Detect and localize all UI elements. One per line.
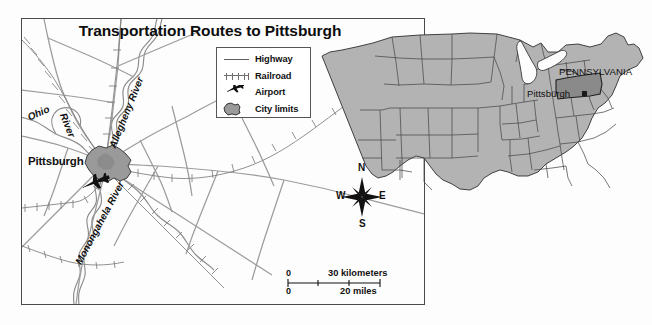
scale-bar: 0 30 kilometers 0 20 miles [286, 268, 408, 300]
inset-city-label-pittsburgh: Pittsburgh [527, 88, 570, 99]
compass-rose: N S W E [336, 162, 388, 232]
legend-label-city-limits: City limits [255, 104, 298, 114]
map-figure: Transportation Routes to Pittsburgh Pitt… [0, 0, 652, 325]
legend-item-city-limits: City limits [217, 101, 310, 118]
legend-label-airport: Airport [255, 87, 285, 97]
legend-item-highway: Highway [217, 51, 310, 68]
scale-km-label: 30 kilometers [328, 268, 387, 278]
highway-line-icon [222, 52, 252, 66]
airplane-icon [222, 85, 252, 99]
compass-east-label: E [379, 190, 386, 201]
scale-mi-start: 0 [286, 286, 291, 296]
inset-city-dot-pittsburgh [582, 91, 587, 96]
map-legend: Highway Railroad Airport [216, 47, 311, 118]
scale-mi-label: 20 miles [340, 286, 377, 296]
compass-south-label: S [359, 218, 366, 229]
compass-north-label: N [358, 162, 365, 173]
page-title: Transportation Routes to Pittsburgh [60, 22, 360, 40]
legend-item-airport: Airport [217, 84, 310, 101]
state-label-pennsylvania: PENNSYLVANIA [559, 66, 632, 77]
city-label-pittsburgh: Pittsburgh [28, 155, 84, 167]
scale-km-start: 0 [286, 268, 291, 278]
city-limits-polygon-icon [222, 102, 252, 116]
legend-label-highway: Highway [255, 54, 293, 64]
legend-item-railroad: Railroad [217, 68, 310, 85]
legend-label-railroad: Railroad [255, 71, 291, 81]
compass-west-label: W [336, 190, 345, 201]
railroad-line-icon [222, 69, 252, 83]
